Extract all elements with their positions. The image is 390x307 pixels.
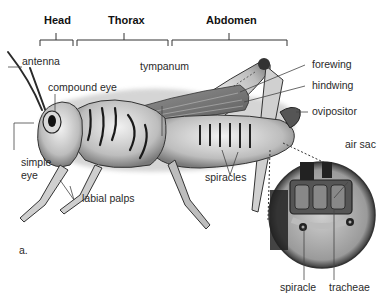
grasshopper-illustration — [0, 0, 390, 307]
panel-label: a. — [19, 245, 28, 257]
region-label-abdomen: Abdomen — [206, 14, 257, 26]
spiracle-inset — [269, 162, 375, 268]
label-tracheae: tracheae — [329, 282, 370, 294]
label-spiracle: spiracle — [280, 282, 316, 294]
region-brackets — [40, 33, 287, 46]
label-antenna: antenna — [22, 56, 60, 68]
label-tympanum: tympanum — [140, 61, 189, 73]
label-air-sac: air sac — [345, 139, 376, 151]
region-label-head: Head — [44, 14, 71, 26]
label-labial-palps: labial palps — [82, 193, 135, 205]
label-spiracles: spiracles — [205, 172, 246, 184]
label-hindwing: hindwing — [312, 80, 353, 92]
label-compound-eye: compound eye — [48, 82, 117, 94]
label-forewing: forewing — [312, 59, 352, 71]
label-simple-eye-2: eye — [21, 170, 38, 182]
label-simple-eye-1: simple — [21, 157, 51, 169]
grasshopper-anatomy-diagram: Head Thorax Abdomen antenna compound eye… — [0, 0, 390, 307]
region-label-thorax: Thorax — [108, 14, 145, 26]
label-ovipositor: ovipositor — [312, 106, 357, 118]
